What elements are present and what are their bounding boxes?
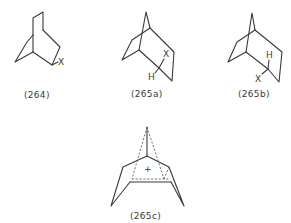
bond-265b-ch <box>268 60 269 69</box>
figure-canvas: X (264) X H (265a) H X (265b) + (265c) <box>0 0 291 223</box>
bond-265b-left-ring <box>228 30 255 62</box>
bond-265c-left-shoulder <box>111 156 147 206</box>
atom-265a-h: H <box>148 72 155 82</box>
structure-265b: H X (265b) <box>228 13 282 99</box>
label-265c: (265c) <box>130 211 161 221</box>
label-264: (264) <box>24 90 50 100</box>
bond-265a-apex <box>139 12 150 50</box>
atom-264-x: X <box>58 57 64 67</box>
label-265b: (265b) <box>238 89 270 99</box>
bond-265a-left-ring <box>122 28 150 60</box>
atom-265b-h: H <box>266 50 273 60</box>
bond-264-upper-left <box>15 35 33 62</box>
bond-265a-ch <box>155 68 159 73</box>
bond-264-right <box>33 30 60 65</box>
bond-264-top-bridge <box>33 12 43 35</box>
bond-265b-right-ring <box>246 30 282 82</box>
atom-265c-plus: + <box>144 164 152 174</box>
structure-265c: + (265c) <box>111 127 184 221</box>
label-265a: (265a) <box>131 89 163 99</box>
atom-265b-x: X <box>255 74 261 84</box>
bond-265c-right-shoulder <box>147 156 184 206</box>
atom-265a-x: X <box>163 49 169 59</box>
dash-265c-right-to-shoulder <box>164 167 169 179</box>
bond-265b-cx <box>262 69 268 74</box>
structure-265a: X H (265a) <box>122 12 174 99</box>
structure-264: X (264) <box>15 12 64 100</box>
bond-265a-cx <box>159 59 164 68</box>
